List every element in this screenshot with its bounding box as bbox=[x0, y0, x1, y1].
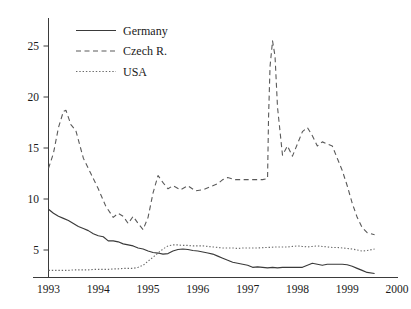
line-chart-figure: 510152025 199319941995199619971998199920… bbox=[0, 0, 411, 309]
x-tick-label: 1998 bbox=[286, 283, 309, 295]
series-line-czech-r bbox=[49, 41, 375, 235]
legend-label-germany: Germany bbox=[123, 24, 168, 38]
x-tick-label: 1994 bbox=[87, 283, 110, 295]
y-tick-label: 20 bbox=[28, 91, 40, 103]
y-tick-label: 5 bbox=[33, 244, 39, 256]
chart-canvas: 510152025 199319941995199619971998199920… bbox=[0, 0, 411, 309]
x-tick-label: 1993 bbox=[37, 283, 60, 295]
x-axis-ticks: 19931994199519961997199819992000 bbox=[37, 283, 409, 295]
data-series-group bbox=[49, 41, 375, 274]
chart-legend: Germany Czech R. USA bbox=[76, 24, 168, 79]
axis-frame bbox=[33, 18, 398, 278]
x-tick-label: 1996 bbox=[186, 283, 209, 295]
legend-label-usa: USA bbox=[123, 65, 147, 79]
y-tick-label: 25 bbox=[28, 40, 40, 52]
y-tick-label: 15 bbox=[28, 142, 40, 154]
x-tick-label: 1995 bbox=[137, 283, 160, 295]
series-line-germany bbox=[49, 209, 375, 273]
y-tick-label: 10 bbox=[28, 193, 40, 205]
x-tick-label: 1999 bbox=[336, 283, 359, 295]
series-line-usa bbox=[49, 245, 375, 271]
x-tick-label: 2000 bbox=[386, 283, 409, 295]
legend-label-czech-r: Czech R. bbox=[123, 44, 167, 58]
x-tick-label: 1997 bbox=[236, 283, 259, 295]
y-axis-ticks: 510152025 bbox=[28, 40, 49, 256]
